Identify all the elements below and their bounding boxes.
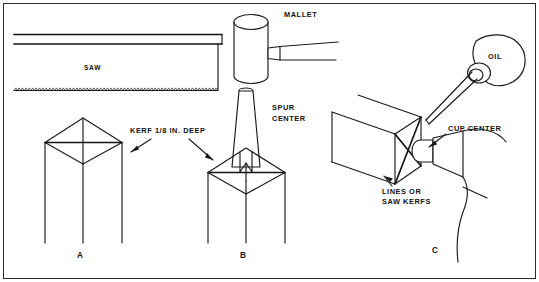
square-post-c (332, 95, 421, 184)
cup-center-taper (433, 131, 463, 177)
oil-can-spout-bottom-edge (429, 79, 477, 124)
tailstock-seam-line (463, 187, 487, 198)
cup-center-cup (412, 140, 433, 162)
tailstock-bottom-curve (457, 177, 467, 262)
panel-label-c: C (432, 246, 438, 255)
mallet: MALLET (234, 10, 338, 84)
kerf-callout: KERF 1/8 IN. DEEP (130, 126, 213, 160)
lines-or-label-line2: SAW KERFS (382, 197, 431, 206)
mallet-handle-top-edge (280, 42, 338, 47)
spur-center: SPUR CENTER (232, 88, 306, 181)
oil-can: OIL (426, 35, 525, 124)
post-c-top-near-edge (332, 112, 395, 134)
mallet-handle-collar (268, 47, 280, 61)
oil-label: OIL (488, 52, 502, 61)
technical-illustration: SAW A KERF 1/8 IN. DEEP (0, 0, 539, 282)
cup-center (412, 129, 506, 262)
illustration-canvas: SAW A KERF 1/8 IN. DEEP (0, 0, 539, 282)
kerf-arrowhead-left (131, 146, 139, 153)
spur-center-label-line1: SPUR (272, 103, 295, 112)
spur-center-label-line2: CENTER (272, 114, 306, 123)
mallet-head-body (234, 22, 268, 84)
post-c-top-far-edge (358, 95, 421, 117)
spur-center-shaft (232, 91, 260, 167)
oil-can-spout-top-edge (426, 72, 472, 120)
mallet-label: MALLET (284, 10, 317, 19)
kerf-label: KERF 1/8 IN. DEEP (130, 126, 205, 135)
saw-teeth (14, 88, 218, 91)
cup-center-label: CUP CENTER (448, 124, 502, 133)
lines-or-label-line1: LINES OR (382, 187, 421, 196)
panel-label-a: A (77, 251, 83, 260)
handsaw: SAW (14, 35, 222, 91)
saw-label: SAW (84, 64, 101, 71)
oil-can-spout-tip (426, 120, 429, 124)
mallet-head-top (234, 15, 268, 30)
saw-kerfs-callout: LINES OR SAW KERFS (382, 176, 431, 206)
square-post-a (45, 118, 122, 243)
panel-label-b: B (240, 251, 246, 260)
post-c-bottom-edge (332, 162, 395, 184)
